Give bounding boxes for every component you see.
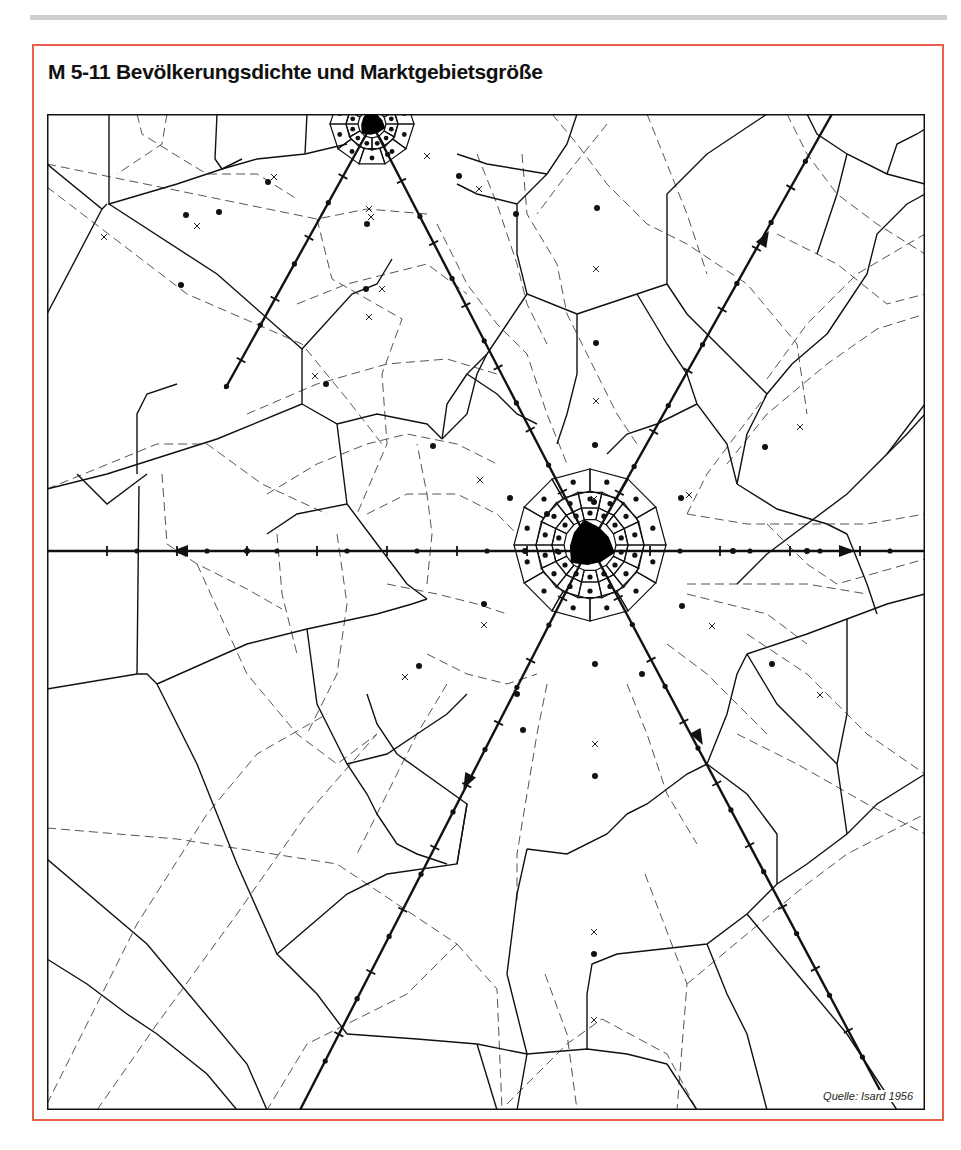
market-area-map: Quelle: Isard 1956 xyxy=(47,114,925,1110)
northwest-route xyxy=(225,124,372,389)
solid-boundaries xyxy=(47,114,925,1110)
map-border xyxy=(48,115,925,1110)
northern-city xyxy=(361,114,385,135)
market-area-diagram xyxy=(47,114,925,1110)
alt-center-crosses xyxy=(101,153,823,1023)
source-citation: Quelle: Isard 1956 xyxy=(821,1090,915,1102)
northeast-route xyxy=(590,114,832,545)
dashed-boundaries xyxy=(47,114,925,1110)
transport-routes xyxy=(47,114,925,1110)
southwest-route xyxy=(300,545,590,1110)
arrowhead-icon xyxy=(172,545,188,557)
center-dots xyxy=(178,114,810,957)
figure-title: M 5-11 Bevölkerungsdichte und Marktgebie… xyxy=(48,60,543,84)
page-top-rule xyxy=(30,15,947,20)
